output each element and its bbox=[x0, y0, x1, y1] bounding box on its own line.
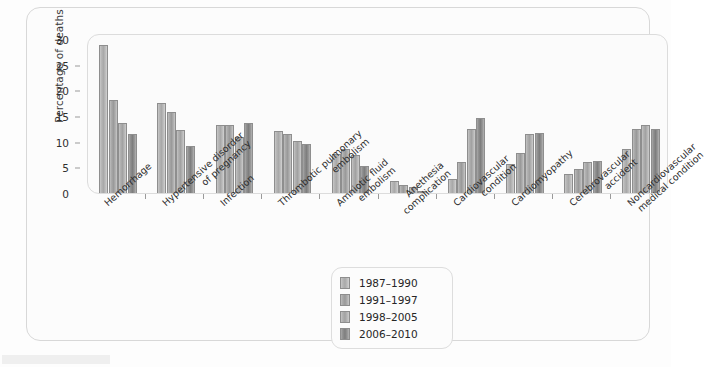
legend-swatch bbox=[340, 277, 350, 289]
y-tick-mark bbox=[75, 117, 80, 118]
legend-label: 1991–1997 bbox=[359, 294, 418, 306]
legend-item[interactable]: 1991–1997 bbox=[340, 291, 442, 308]
y-tick-label: 20 bbox=[35, 85, 69, 97]
bar bbox=[157, 103, 166, 193]
x-tick-mark bbox=[319, 194, 320, 199]
legend-item[interactable]: 1987–1990 bbox=[340, 274, 442, 291]
legend-swatch bbox=[340, 294, 350, 306]
y-tick-label: 25 bbox=[35, 60, 69, 72]
bar bbox=[448, 179, 457, 193]
legend-swatch bbox=[340, 328, 350, 340]
y-tick-label: 10 bbox=[35, 137, 69, 149]
y-tick-label: 0 bbox=[35, 188, 69, 200]
y-tick-label: 15 bbox=[35, 111, 69, 123]
legend-item[interactable]: 2006–2010 bbox=[340, 325, 442, 342]
y-axis-title: Percentage of deaths bbox=[53, 0, 65, 146]
scan-artifact bbox=[2, 355, 110, 364]
bar bbox=[109, 100, 118, 193]
y-tick-mark bbox=[75, 142, 80, 143]
legend-label: 1998–2005 bbox=[359, 311, 418, 323]
x-tick-mark bbox=[436, 194, 437, 199]
legend-label: 1987–1990 bbox=[359, 277, 418, 289]
chart-legend[interactable]: 1987–19901991–19971998–20052006–2010 bbox=[331, 267, 453, 349]
chart-outer-frame: Percentage of deaths 051015202530 Hemorr… bbox=[26, 7, 650, 341]
x-tick-mark bbox=[145, 194, 146, 199]
bar bbox=[564, 174, 573, 194]
y-tick-mark bbox=[75, 65, 80, 66]
x-tick-mark bbox=[610, 194, 611, 199]
bar bbox=[99, 45, 108, 193]
y-tick-mark bbox=[75, 91, 80, 92]
legend-item[interactable]: 1998–2005 bbox=[340, 308, 442, 325]
legend-label: 2006–2010 bbox=[359, 328, 418, 340]
x-tick-mark bbox=[552, 194, 553, 199]
y-tick-label: 5 bbox=[35, 162, 69, 174]
bar bbox=[167, 112, 176, 193]
x-tick-mark bbox=[378, 194, 379, 199]
y-tick-label: 30 bbox=[35, 34, 69, 46]
legend-swatch bbox=[340, 311, 350, 323]
bar bbox=[283, 134, 292, 193]
legend-rows: 1987–19901991–19971998–20052006–2010 bbox=[340, 274, 442, 342]
bar bbox=[274, 131, 283, 193]
x-tick-mark bbox=[494, 194, 495, 199]
y-tick-mark bbox=[75, 168, 80, 169]
x-tick-mark bbox=[261, 194, 262, 199]
x-tick-mark bbox=[203, 194, 204, 199]
bar bbox=[390, 181, 399, 193]
